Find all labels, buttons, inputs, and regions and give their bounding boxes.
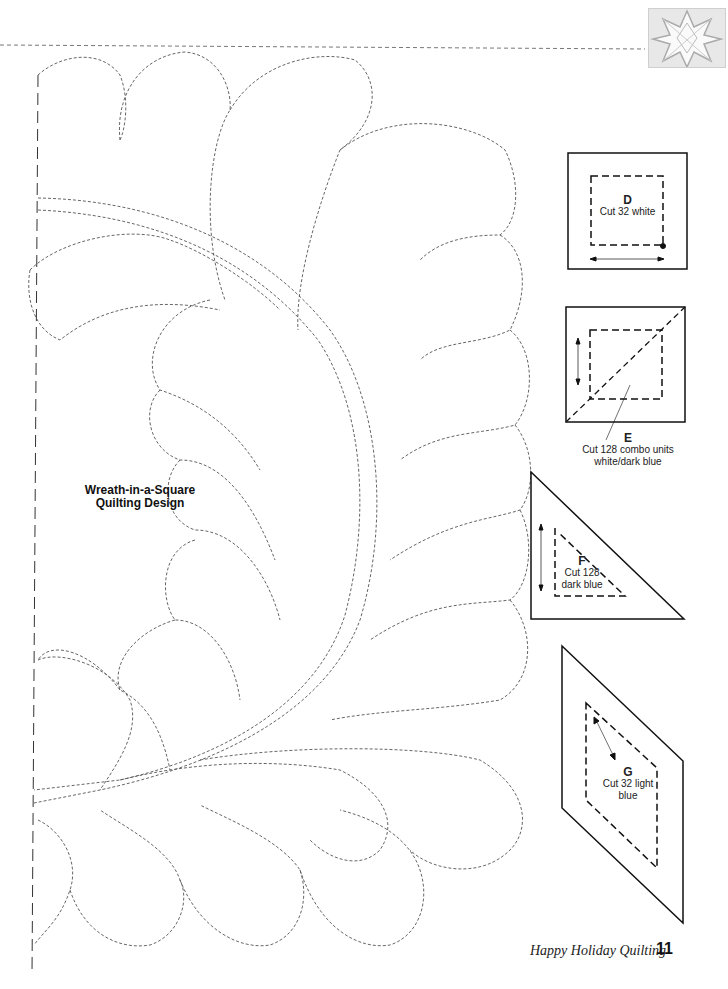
template-f	[531, 472, 684, 619]
template-color-text: blue	[588, 790, 668, 802]
design-title: Wreath-in-a-Square Quilting Design	[70, 484, 210, 510]
book-title: Happy Holiday Quilting	[530, 943, 666, 959]
left-dashed-border	[32, 75, 38, 975]
template-letter: G	[588, 766, 668, 778]
template-cut-text: Cut 128 combo units	[568, 444, 688, 456]
template-e	[566, 307, 685, 440]
template-cut-text: Cut 32 white	[600, 206, 656, 217]
pattern-page: Wreath-in-a-Square Quilting Design D Cut…	[0, 0, 728, 989]
template-letter: D	[585, 194, 670, 206]
page-number: 11	[656, 940, 673, 958]
template-letter: F	[552, 555, 612, 567]
template-d-label: D Cut 32 white	[585, 194, 670, 218]
design-title-line2: Quilting Design	[70, 497, 210, 510]
template-cut-text: Cut 32 light	[588, 778, 668, 790]
top-dashed-border	[0, 45, 645, 49]
template-e-label: E Cut 128 combo units white/dark blue	[568, 432, 688, 468]
template-letter: E	[568, 432, 688, 444]
template-color-text: dark blue	[552, 579, 612, 591]
template-cut-text: Cut 128	[552, 567, 612, 579]
template-f-label: F Cut 128 dark blue	[552, 555, 612, 591]
template-color-text: white/dark blue	[568, 456, 688, 468]
template-g-label: G Cut 32 light blue	[588, 766, 668, 802]
